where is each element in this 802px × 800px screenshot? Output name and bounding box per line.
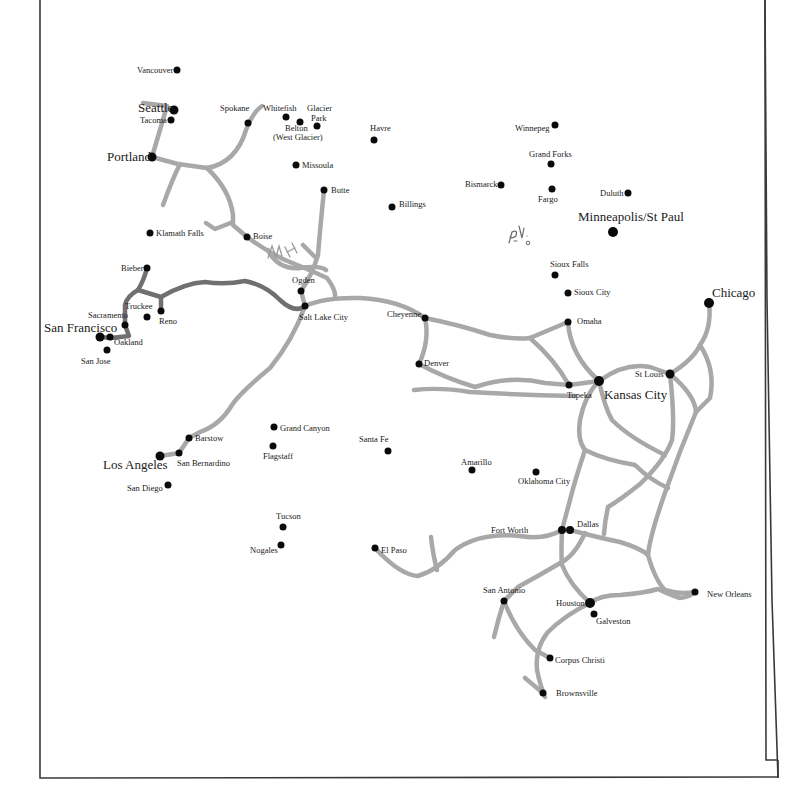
city-dot-icon [298,288,305,295]
city-dot-icon [245,120,252,127]
city-dot-icon [389,204,396,211]
city-label: Park [311,113,327,123]
city-dot-icon [302,303,309,310]
city-label: San Jose [81,356,111,366]
city-dot-icon [540,690,547,697]
city-nogales: Nogales [250,542,285,556]
city-dot-icon [278,542,285,549]
city-boise: Boise [244,231,273,241]
city-label: Amarillo [461,457,492,467]
city-label: Tucson [276,511,301,521]
city-label: Klamath Falls [156,228,204,238]
city-dot-icon [270,443,277,450]
city-dot-icon [566,382,573,389]
city-dot-icon [594,376,604,386]
city-dot-icon [314,123,321,130]
city-dot-icon [666,370,675,379]
city-sioux-city: Sioux City [565,287,612,297]
city-label: Sioux Falls [550,259,589,269]
city-san-bernardino: San Bernardino [176,450,231,469]
city-label: Portland [107,149,152,164]
city-fargo: Fargo [538,186,558,205]
city-dot-icon [501,598,508,605]
city-label: Galveston [596,616,631,626]
city-chicago: Chicago [704,285,755,308]
city-dot-icon [625,190,632,197]
city-label: Flagstaff [263,451,293,461]
city-label: Nogales [250,545,278,555]
city-seattle: Seattle [138,100,179,115]
city-houston: Houston [556,598,595,608]
cities-layer: VancouverSeattleTacomaPortlandSpokaneWhi… [44,65,755,698]
city-new-orleans: New Orleans [692,589,752,600]
city-dot-icon [372,545,379,552]
city-label: Kansas City [604,387,668,402]
city-dot-icon [385,448,392,455]
city-label: San Bernardino [177,458,230,468]
city-dot-icon [244,234,251,241]
city-label: Bismarck [465,179,498,189]
city-dot-icon [498,182,505,189]
city-dot-icon [271,424,278,431]
city-label: Dallas [577,519,599,529]
city-san-diego: San Diego [127,482,172,494]
city-dot-icon [144,314,151,321]
city-dot-icon [122,322,129,329]
city-dot-icon [321,187,328,194]
city-label: Havre [370,123,391,133]
city-label: Billings [399,199,426,209]
city-st-louis: St Louis [635,369,675,379]
city-portland: Portland [107,149,157,164]
city-dot-icon [547,655,554,662]
city-label: Seattle [138,100,174,115]
city-west-glacier: (West Glacier) [273,132,323,142]
city-dot-icon [549,186,556,193]
city-label: Truckee [125,301,153,311]
city-label: St Louis [635,369,664,379]
city-dot-icon [565,290,572,297]
city-label: Spokane [220,103,250,113]
city-label: San Francisco [44,320,117,335]
map-frame-right [765,0,778,778]
city-label: Chicago [712,285,755,300]
city-dot-icon [608,227,618,237]
city-dot-icon [552,272,559,279]
city-dot-icon [558,526,566,534]
city-label: Grand Forks [529,149,572,159]
city-salt-lake-city: Salt Lake City [299,303,349,323]
city-dot-icon [186,435,193,442]
city-label: Sacramento [88,310,128,320]
city-dot-icon [280,524,287,531]
city-label: San Antonio [483,585,525,595]
city-dot-icon [371,137,378,144]
city-dot-icon [422,315,429,322]
city-label: Whitefish [263,103,297,113]
city-dot-icon [165,482,172,489]
city-dot-icon [176,450,183,457]
city-bismarck: Bismarck [465,179,505,189]
city-corpus-christi: Corpus Christi [547,655,606,666]
city-label: Missoula [302,160,333,170]
city-whitefish: Whitefish [263,103,297,121]
city-label: El Paso [381,545,407,555]
city-kansas-city: Kansas City [594,376,668,402]
city-winnepeg: Winnepeg [515,122,559,134]
city-label: Fort Worth [491,525,529,535]
city-label: San Diego [127,483,163,493]
city-dot-icon [107,334,114,341]
city-vancouver: Vancouver [137,65,181,75]
city-label: Glacier [307,103,332,113]
city-dot-icon [566,526,574,534]
city-label: Duluth [600,188,624,198]
city-dot-icon [552,122,559,129]
city-label: Butte [331,185,350,195]
city-klamath-falls: Klamath Falls [147,228,204,238]
city-label: Reno [159,316,177,326]
city-oklahoma-city: Oklahoma City [518,469,571,487]
city-dot-icon [283,114,290,121]
city-dot-icon [416,361,423,368]
city-label: Santa Fe [359,434,389,444]
city-label: New Orleans [707,589,752,599]
city-truckee: Truckee [125,301,153,321]
city-label: Boise [253,231,273,241]
